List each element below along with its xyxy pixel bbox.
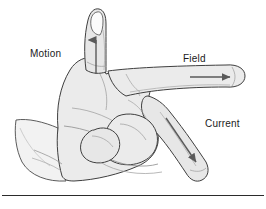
label-motion: Motion bbox=[30, 49, 61, 59]
fleming-hand-figure: Motion Field Current bbox=[0, 0, 266, 209]
index-finger-shape bbox=[108, 65, 245, 96]
hand-illustration bbox=[0, 0, 266, 209]
label-current: Current bbox=[205, 119, 240, 129]
index-finger-group bbox=[108, 65, 245, 96]
label-field: Field bbox=[183, 54, 206, 64]
figure-bottom-rule bbox=[2, 195, 264, 196]
